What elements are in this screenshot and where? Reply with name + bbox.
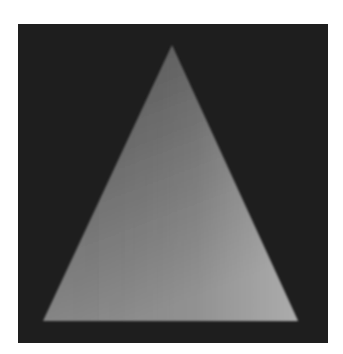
triangle-highlight xyxy=(43,45,298,321)
triangle-scene xyxy=(0,0,343,354)
